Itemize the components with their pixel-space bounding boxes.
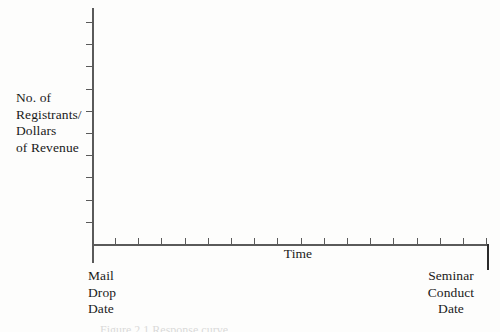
x-axis-tick — [347, 238, 348, 244]
y-axis-tick — [86, 22, 92, 23]
y-axis-tick — [86, 177, 92, 178]
x-axis-tick — [370, 238, 371, 244]
x-axis-tick — [254, 238, 255, 244]
y-axis-tick — [86, 66, 92, 67]
figure-caption: Figure 2.1 Response curve — [100, 323, 400, 332]
x-axis-tick — [301, 238, 302, 244]
x-axis-tick — [393, 238, 394, 244]
y-axis-label: No. of Registrants/ Dollars of Revenue — [16, 90, 90, 156]
x-axis-tick — [185, 238, 186, 244]
x-axis-tick — [115, 238, 116, 244]
x-axis-tick — [463, 238, 464, 244]
y-axis-line — [92, 8, 94, 263]
x-axis-tick — [440, 238, 441, 244]
y-axis-tick — [86, 44, 92, 45]
x-axis-tick — [277, 238, 278, 244]
x-axis-end-marker — [487, 244, 489, 270]
x-axis-end-label: Seminar Conduct Date — [408, 268, 494, 318]
y-axis-tick — [86, 222, 92, 223]
x-axis-tick — [486, 238, 487, 244]
x-axis-start-label: Mail Drop Date — [88, 268, 168, 318]
x-axis-label: Time — [248, 246, 348, 263]
x-axis-tick — [417, 238, 418, 244]
figure-container: No. of Registrants/ Dollars of Revenue T… — [0, 0, 500, 332]
y-axis-tick — [86, 200, 92, 201]
x-axis-tick — [161, 238, 162, 244]
x-axis-tick — [324, 238, 325, 244]
x-axis-tick — [208, 238, 209, 244]
x-axis-tick — [231, 238, 232, 244]
x-axis-tick — [138, 238, 139, 244]
